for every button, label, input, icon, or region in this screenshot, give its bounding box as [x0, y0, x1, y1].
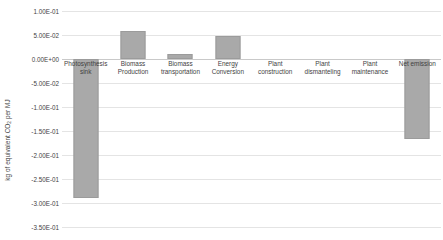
y-axis-tick-label: 5.00E-02 [33, 32, 59, 39]
x-axis-category-label: Energy Conversion [204, 60, 251, 76]
y-axis-title-text: kg of equivalent CO2 per MJ [4, 99, 11, 180]
x-axis-category-label: Biomass transportation [157, 60, 204, 76]
y-axis-title-suffix: per MJ [4, 99, 11, 121]
y-axis-tick-label: 0.00E+00 [32, 56, 59, 63]
y-axis-tick-label: -2.00E-01 [31, 152, 59, 159]
y-axis-tick-label: -5.00E-02 [31, 80, 59, 87]
x-axis-category-labels: Photosynthesis sinkBiomass ProductionBio… [62, 0, 441, 240]
y-axis-title-subscript: 2 [7, 121, 12, 124]
x-axis-category-label: Biomass Production [109, 60, 156, 76]
x-axis-category-label: Plant maintenance [346, 60, 393, 76]
y-axis-tick-label: 1.00E-01 [33, 8, 59, 15]
x-axis-category-label: Plant dismanteling [299, 60, 346, 76]
x-axis-category-label: Photosynthesis sink [62, 60, 109, 76]
y-axis-tick-label: -3.50E-01 [31, 224, 59, 231]
bar-chart-figure: kg of equivalent CO2 per MJ 1.00E-015.00… [0, 0, 443, 240]
y-axis-tick-label: -2.50E-01 [31, 176, 59, 183]
y-axis-title: kg of equivalent CO2 per MJ [0, 0, 14, 240]
y-axis-tick-label: -1.50E-01 [31, 128, 59, 135]
x-axis-category-label: Plant construction [252, 60, 299, 76]
plot-area: Photosynthesis sinkBiomass ProductionBio… [62, 0, 441, 240]
y-axis-title-prefix: kg of equivalent CO [4, 124, 11, 181]
y-axis-tick-labels: 1.00E-015.00E-020.00E+00-5.00E-02-1.00E-… [14, 0, 62, 240]
y-axis-tick-label: -3.00E-01 [31, 200, 59, 207]
x-axis-category-label: Net emission [394, 60, 441, 68]
y-axis-tick-label: -1.00E-01 [31, 104, 59, 111]
